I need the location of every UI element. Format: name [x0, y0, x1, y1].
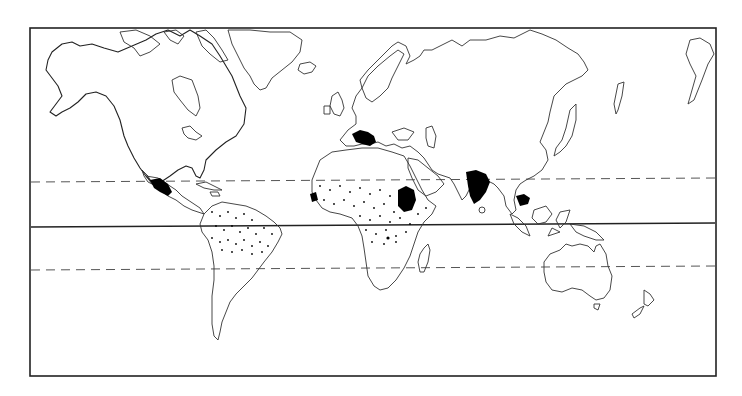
africa-coast [312, 148, 436, 290]
south-america-coast [200, 202, 282, 340]
tropic-of-capricorn-line [31, 266, 715, 270]
great-lakes [182, 126, 202, 140]
north-america-coast [46, 30, 246, 184]
caribbean-islands [196, 182, 222, 196]
hudson-bay [172, 76, 200, 116]
sakhalin-coast [614, 82, 624, 114]
japan-coast [554, 104, 576, 156]
sparse-south-america [211, 211, 273, 255]
world-map [0, 0, 742, 396]
iceland-coast [298, 62, 316, 74]
sri-lanka [479, 207, 485, 213]
sparse-distribution [211, 185, 427, 255]
tropic-of-cancer-line [31, 178, 715, 182]
new-guinea-coast [570, 224, 604, 240]
eurasia-coast [340, 30, 588, 214]
map-frame [30, 28, 716, 376]
black-sea [392, 128, 414, 140]
dense-mediterranean [352, 130, 376, 146]
dense-indochina [516, 194, 530, 206]
dense-distribution [150, 130, 530, 212]
new-zealand-coast [632, 290, 654, 318]
dense-india [466, 170, 490, 204]
greenland-coast [228, 30, 302, 90]
australia-coast [544, 244, 612, 300]
coastlines [46, 30, 714, 340]
dense-ethiopia [398, 186, 416, 212]
scandinavia-coast [362, 50, 404, 102]
equator-line [31, 223, 715, 227]
southeast-asia-islands [510, 206, 570, 236]
arctic-islands [120, 30, 228, 62]
tasmania-coast [594, 304, 600, 310]
british-isles-coast [324, 92, 344, 116]
caspian-sea [426, 126, 436, 148]
kamchatka-coast [686, 38, 714, 104]
